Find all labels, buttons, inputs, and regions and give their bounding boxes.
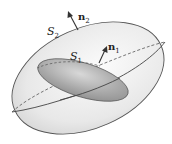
outer-normal-n2	[68, 11, 79, 30]
surface-diagram: S2 n2 S1 n1	[0, 0, 172, 144]
label-n2: n2	[78, 11, 90, 25]
label-s2: S2	[47, 25, 59, 40]
n2-arrowhead-icon	[68, 11, 74, 18]
n2-arrow-shaft	[70, 15, 78, 30]
